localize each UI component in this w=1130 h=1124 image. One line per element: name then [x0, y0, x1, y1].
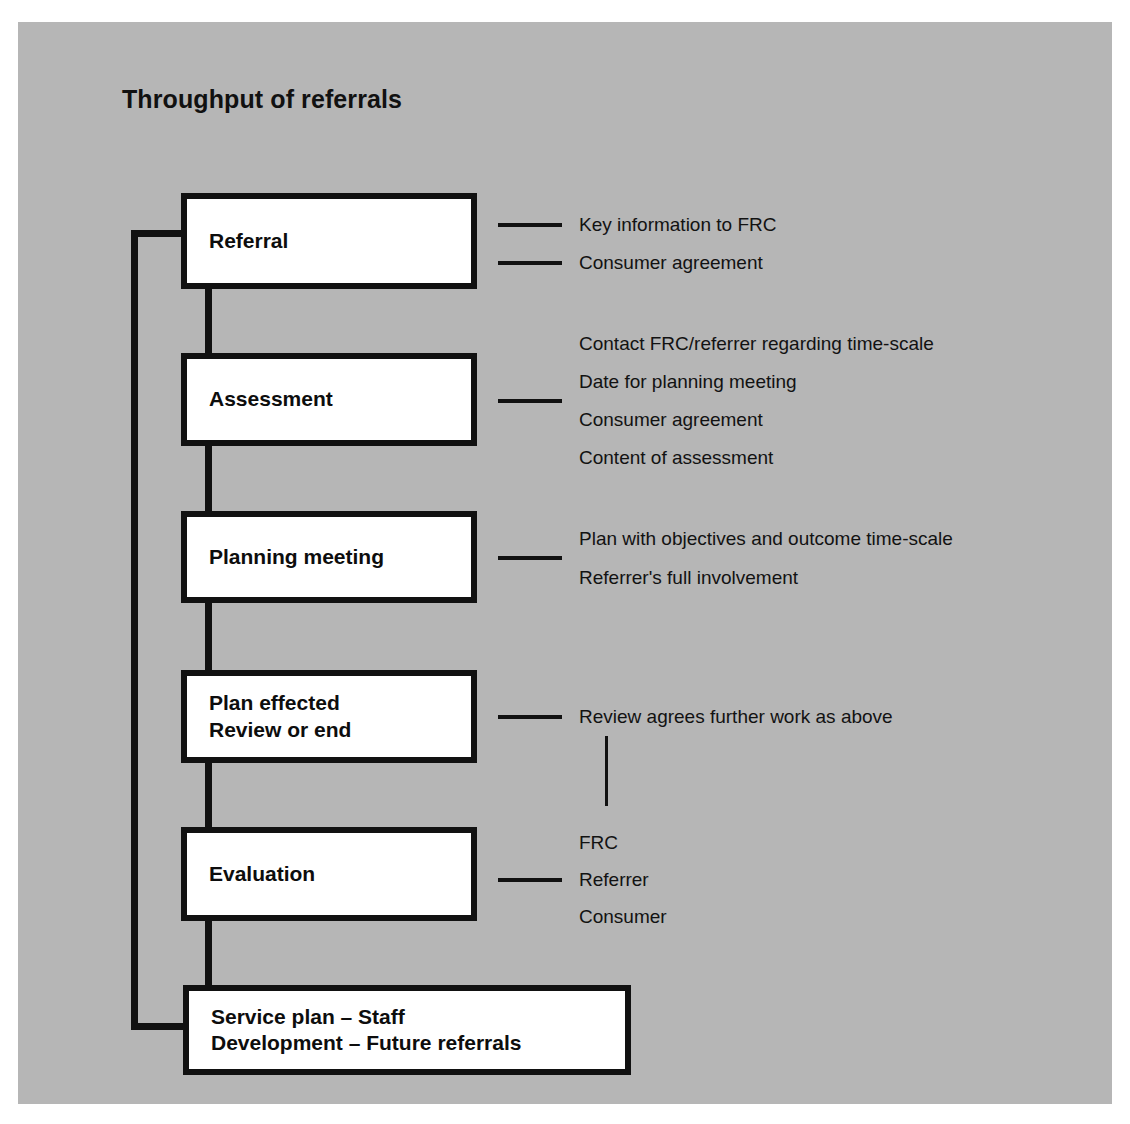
annotation-plan-effected-0: Review agrees further work as above: [579, 706, 893, 728]
flow-box-label: Assessment: [187, 386, 333, 412]
annotation-referral-1: Consumer agreement: [579, 252, 763, 274]
annotation-assessment-0: Contact FRC/referrer regarding time-scal…: [579, 333, 934, 355]
leader-line-planning-meeting: [498, 556, 562, 560]
connector-evaluation-to-service-plan: [205, 919, 212, 987]
flow-box-label: Service plan – Staff Development – Futur…: [189, 1004, 521, 1057]
flow-box-service-plan: Service plan – Staff Development – Futur…: [183, 985, 631, 1075]
connector-plan-effected-to-evaluation: [205, 761, 212, 829]
feedback-loop-bottom-segment: [131, 1023, 186, 1030]
flow-box-label: Referral: [187, 228, 288, 254]
leader-line-assessment: [498, 399, 562, 403]
annotation-evaluation-0: FRC: [579, 832, 618, 854]
connector-referral-to-assessment: [205, 287, 212, 355]
feedback-loop-left-segment: [131, 230, 138, 1030]
leader-line-referral-2: [498, 261, 562, 265]
flow-box-planning-meeting: Planning meeting: [181, 511, 477, 603]
flow-box-evaluation: Evaluation: [181, 827, 477, 921]
annotation-planning-0: Plan with objectives and outcome time-sc…: [579, 528, 953, 550]
connector-assessment-to-planning: [205, 444, 212, 513]
flow-box-assessment: Assessment: [181, 353, 477, 446]
flow-box-label: Plan effected Review or end: [187, 690, 351, 743]
leader-line-review-to-evaluation: [605, 736, 608, 806]
annotation-evaluation-1: Referrer: [579, 869, 649, 891]
annotation-evaluation-2: Consumer: [579, 906, 667, 928]
annotation-assessment-3: Content of assessment: [579, 447, 773, 469]
leader-line-plan-effected: [498, 715, 562, 719]
annotation-planning-1: Referrer's full involvement: [579, 567, 798, 589]
leader-line-referral-1: [498, 223, 562, 227]
flow-box-plan-effected: Plan effected Review or end: [181, 670, 477, 763]
annotation-assessment-1: Date for planning meeting: [579, 371, 797, 393]
connector-planning-to-plan-effected: [205, 601, 212, 672]
leader-line-evaluation: [498, 878, 562, 882]
figure-panel: Throughput of referrals Referral Assessm…: [18, 22, 1112, 1104]
page-title: Throughput of referrals: [122, 85, 402, 114]
annotation-assessment-2: Consumer agreement: [579, 409, 763, 431]
flow-box-label: Planning meeting: [187, 544, 384, 570]
flow-box-referral: Referral: [181, 193, 477, 289]
feedback-loop-top-segment: [131, 230, 186, 237]
annotation-referral-0: Key information to FRC: [579, 214, 776, 236]
flow-box-label: Evaluation: [187, 861, 315, 887]
